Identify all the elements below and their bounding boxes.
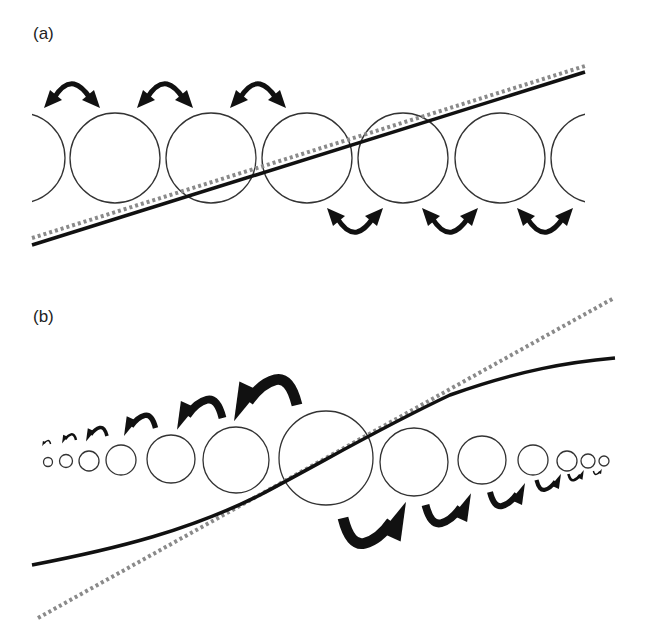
circle xyxy=(581,454,595,468)
diagram-canvas xyxy=(0,0,648,642)
circle xyxy=(79,451,99,471)
circle xyxy=(147,435,195,483)
double-arrow-icon xyxy=(137,84,193,108)
panel-b-solid-curve xyxy=(32,358,615,565)
hook-arrow-right-icon xyxy=(568,470,583,480)
double-arrow-icon xyxy=(422,208,478,232)
circle xyxy=(455,113,545,203)
circle xyxy=(518,445,548,475)
circle xyxy=(106,445,136,475)
hook-arrow-left-icon xyxy=(62,434,76,443)
panel-a-dotted-line xyxy=(32,66,585,238)
panel-a-circles xyxy=(0,113,641,203)
hook-arrow-right-icon xyxy=(537,474,562,490)
hook-arrow-right-icon xyxy=(426,493,472,523)
double-arrow-icon xyxy=(44,84,100,108)
double-arrow-icon xyxy=(517,208,573,232)
hook-arrow-left-icon xyxy=(124,415,156,436)
panel-a xyxy=(0,66,641,245)
circle xyxy=(70,113,160,203)
circle xyxy=(599,456,609,466)
circle xyxy=(358,113,448,203)
hook-arrow-left-icon xyxy=(86,427,107,441)
circle xyxy=(203,427,269,493)
hook-arrow-right-icon xyxy=(593,469,601,475)
circle xyxy=(44,458,53,467)
hook-arrow-right-icon xyxy=(490,483,525,506)
circle xyxy=(551,113,641,203)
circle xyxy=(557,451,577,471)
hook-arrow-left-icon xyxy=(177,400,223,430)
panel-a-solid-line xyxy=(32,72,585,245)
hook-arrow-right-icon xyxy=(343,502,406,544)
panel-b xyxy=(32,298,615,618)
double-arrow-icon xyxy=(230,84,286,108)
double-arrow-icon xyxy=(327,208,383,232)
hook-arrow-left-icon xyxy=(234,379,297,421)
circle xyxy=(60,455,73,468)
hook-arrow-left-icon xyxy=(42,441,50,447)
circle xyxy=(458,436,506,484)
circle xyxy=(380,428,448,496)
circle xyxy=(0,113,65,203)
